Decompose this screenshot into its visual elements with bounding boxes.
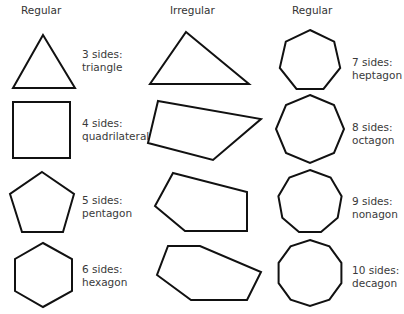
polygon-diagram — [0, 0, 404, 314]
label-heptagon-name: heptagon — [352, 69, 402, 82]
label-nonagon-name: nonagon — [352, 208, 398, 221]
label-nonagon-sides: 9 sides: — [352, 195, 398, 208]
label-hexagon-sides: 6 sides: — [82, 263, 127, 276]
label-quadrilateral-sides: 4 sides: — [82, 117, 149, 130]
regular-decagon-shape — [279, 240, 342, 306]
label-octagon-name: octagon — [352, 134, 395, 147]
irregular-pentagon-shape — [155, 173, 247, 231]
irregular-hexagon-shape — [157, 246, 261, 300]
label-triangle-sides: 3 sides: — [82, 48, 123, 61]
label-pentagon-sides: 5 sides: — [82, 194, 132, 207]
label-decagon-sides: 10 sides: — [352, 264, 399, 277]
irregular-quadrilateral-shape — [148, 101, 261, 160]
label-octagon: 8 sides: octagon — [352, 121, 395, 147]
label-triangle: 3 sides: triangle — [82, 48, 123, 74]
label-decagon: 10 sides: decagon — [352, 264, 399, 290]
label-pentagon-name: pentagon — [82, 207, 132, 220]
regular-hexagon-shape — [15, 243, 72, 307]
label-quadrilateral: 4 sides: quadrilateral — [82, 117, 149, 143]
label-pentagon: 5 sides: pentagon — [82, 194, 132, 220]
regular-triangle-shape — [13, 35, 75, 88]
label-heptagon-sides: 7 sides: — [352, 56, 402, 69]
regular-square-shape — [13, 102, 70, 158]
label-hexagon: 6 sides: hexagon — [82, 263, 127, 289]
label-hexagon-name: hexagon — [82, 276, 127, 289]
label-nonagon: 9 sides: nonagon — [352, 195, 398, 221]
regular-nonagon-shape — [278, 170, 341, 232]
label-triangle-name: triangle — [82, 61, 123, 74]
regular-octagon-shape — [276, 95, 344, 163]
label-octagon-sides: 8 sides: — [352, 121, 395, 134]
label-quadrilateral-name: quadrilateral — [82, 130, 149, 143]
regular-pentagon-shape — [10, 172, 74, 232]
label-heptagon: 7 sides: heptagon — [352, 56, 402, 82]
irregular-triangle-shape — [150, 32, 249, 84]
regular-heptagon-shape — [280, 30, 340, 89]
label-decagon-name: decagon — [352, 277, 399, 290]
